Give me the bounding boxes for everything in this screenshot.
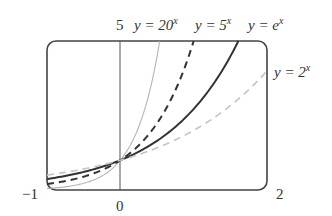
curve-3 xyxy=(47,71,267,175)
x-max-label: 2 xyxy=(276,186,284,202)
curves-group xyxy=(47,41,267,189)
label-2x: y = 2x xyxy=(272,62,311,80)
exponential-chart: −1 0 2 5 y = 20x y = 5x y = ex y = 2x xyxy=(0,0,332,216)
label-5x: y = 5x xyxy=(193,15,232,33)
x-zero-label: 0 xyxy=(116,198,124,214)
curve-2 xyxy=(47,41,238,179)
label-20x: y = 20x xyxy=(132,15,178,33)
x-min-label: −1 xyxy=(22,186,38,202)
plot-frame xyxy=(47,41,267,190)
label-ex: y = ex xyxy=(246,15,284,33)
y-max-label: 5 xyxy=(116,17,124,33)
